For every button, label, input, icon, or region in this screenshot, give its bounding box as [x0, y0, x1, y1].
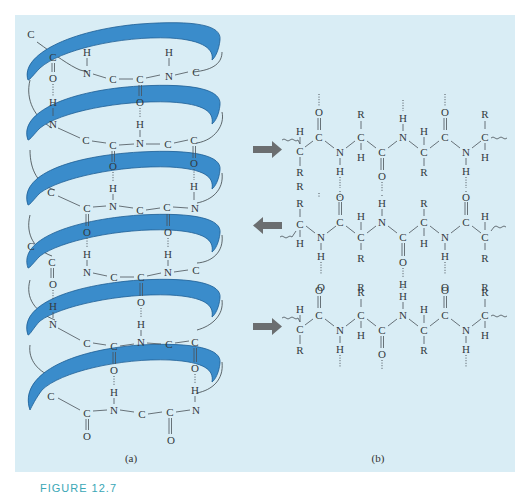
svg-text:C: C: [315, 309, 322, 321]
svg-text:N: N: [49, 118, 57, 130]
svg-text:C: C: [357, 131, 364, 143]
svg-text:H: H: [357, 151, 365, 163]
svg-text:C: C: [378, 146, 385, 158]
svg-text:H: H: [481, 151, 489, 163]
svg-text:R: R: [296, 166, 304, 178]
svg-text:N: N: [110, 404, 118, 416]
svg-text:R: R: [296, 344, 304, 356]
svg-text:C: C: [357, 231, 364, 243]
svg-text:H: H: [357, 210, 365, 222]
svg-text:C: C: [481, 231, 488, 243]
svg-text:H: H: [191, 384, 199, 396]
svg-text:O: O: [83, 430, 91, 442]
svg-text:H: H: [420, 237, 428, 249]
svg-text:C: C: [164, 138, 171, 150]
svg-text:R: R: [296, 197, 304, 209]
svg-text:C: C: [110, 271, 117, 283]
svg-text:N: N: [399, 131, 407, 143]
svg-text:O: O: [49, 72, 57, 84]
svg-text:N: N: [378, 216, 386, 228]
svg-text:O: O: [462, 191, 470, 203]
svg-text:H: H: [137, 318, 145, 330]
svg-text:H: H: [462, 165, 470, 177]
svg-text:C: C: [82, 134, 89, 146]
svg-text:C: C: [462, 216, 469, 228]
svg-text:C: C: [378, 324, 385, 336]
svg-text:C: C: [481, 309, 488, 321]
svg-text:O: O: [336, 191, 344, 203]
svg-text:N: N: [399, 309, 407, 321]
svg-text:C: C: [48, 256, 55, 268]
svg-text:C: C: [191, 336, 198, 348]
svg-text:H: H: [296, 237, 304, 249]
svg-text:C: C: [47, 186, 54, 198]
svg-text:N: N: [462, 146, 470, 158]
figure-caption: FIGURE 12.7: [40, 482, 117, 494]
svg-text:C: C: [190, 134, 197, 146]
svg-text:H: H: [336, 343, 344, 355]
svg-text:O: O: [164, 226, 172, 238]
svg-text:H: H: [357, 329, 365, 341]
svg-text:R: R: [357, 252, 365, 264]
svg-text:C: C: [165, 338, 172, 350]
svg-text:H: H: [190, 180, 198, 192]
svg-text:C: C: [83, 202, 90, 214]
svg-text:O: O: [109, 160, 117, 172]
svg-text:O: O: [399, 256, 407, 268]
svg-text:O: O: [315, 284, 323, 296]
svg-text:R: R: [420, 344, 428, 356]
svg-text:N: N: [191, 202, 199, 214]
svg-text:C: C: [136, 204, 143, 216]
svg-text:H: H: [420, 125, 428, 137]
svg-text:H: H: [399, 112, 407, 124]
svg-text:N: N: [165, 70, 173, 82]
svg-text:C: C: [192, 66, 199, 78]
svg-text:H: H: [296, 303, 304, 315]
svg-text:C: C: [420, 216, 427, 228]
svg-text:N: N: [462, 324, 470, 336]
svg-text:R: R: [357, 286, 365, 298]
svg-text:O: O: [191, 362, 199, 374]
svg-text:H: H: [481, 210, 489, 222]
svg-text:C: C: [83, 337, 90, 349]
svg-text:C: C: [136, 73, 143, 85]
figure-panel: [15, 15, 515, 472]
svg-text:H: H: [83, 46, 91, 58]
svg-text:C: C: [109, 73, 116, 85]
svg-text:N: N: [49, 318, 57, 330]
svg-text:H: H: [481, 329, 489, 341]
svg-text:R: R: [357, 108, 365, 120]
svg-text:R: R: [481, 286, 489, 298]
panel-b-label: (b): [372, 452, 385, 465]
svg-text:C: C: [137, 271, 144, 283]
svg-text:H: H: [399, 290, 407, 302]
svg-text:O: O: [136, 96, 144, 108]
svg-text:O: O: [441, 106, 449, 118]
svg-text:O: O: [49, 278, 57, 290]
svg-text:C: C: [296, 218, 303, 230]
svg-text:N: N: [109, 200, 117, 212]
svg-text:R: R: [481, 252, 489, 264]
svg-text:C: C: [110, 340, 117, 352]
svg-text:C: C: [441, 309, 448, 321]
svg-text:N: N: [441, 231, 449, 243]
svg-text:C: C: [481, 131, 488, 143]
svg-text:C: C: [441, 131, 448, 143]
svg-text:H: H: [110, 386, 118, 398]
svg-text:C: C: [83, 407, 90, 419]
svg-text:N: N: [336, 146, 344, 158]
svg-text:C: C: [336, 216, 343, 228]
svg-text:C: C: [109, 139, 116, 151]
svg-text:C: C: [420, 146, 427, 158]
svg-text:R: R: [420, 197, 428, 209]
svg-text:C: C: [296, 323, 303, 335]
svg-text:H: H: [49, 96, 57, 108]
svg-text:O: O: [190, 157, 198, 169]
svg-text:O: O: [137, 296, 145, 308]
svg-text:R: R: [296, 180, 304, 192]
svg-text:C: C: [138, 408, 145, 420]
svg-text:C: C: [315, 131, 322, 143]
svg-text:H: H: [420, 303, 428, 315]
svg-text:N: N: [83, 266, 91, 278]
